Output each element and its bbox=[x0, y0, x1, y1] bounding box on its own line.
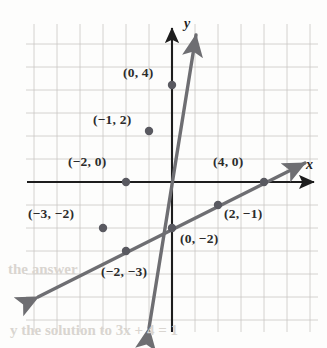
point-neg2-0 bbox=[122, 178, 130, 186]
point-0-4 bbox=[168, 81, 176, 89]
point-label-0-neg2: (0, −2) bbox=[180, 232, 218, 246]
point-label-0-4: (0, 4) bbox=[123, 66, 153, 80]
point-0-neg2 bbox=[168, 224, 176, 232]
point-label-2-neg1: (2, −1) bbox=[224, 207, 262, 221]
point-label-neg2-0: (−2, 0) bbox=[68, 155, 106, 169]
point-label-4-0: (4, 0) bbox=[213, 155, 243, 169]
graph-figure: the answer y the solution to 3x + 4 = 1 … bbox=[0, 0, 327, 348]
point-label-neg2-neg3: (−2, −3) bbox=[101, 265, 147, 279]
point-neg1-2 bbox=[145, 127, 153, 135]
bleed-text-line-1: the answer bbox=[8, 262, 78, 277]
y-axis-label: y bbox=[184, 17, 190, 31]
point-neg3-neg2 bbox=[99, 224, 107, 232]
point-label-neg1-2: (−1, 2) bbox=[93, 113, 131, 127]
x-axis-label: x bbox=[306, 158, 313, 172]
point-4-0 bbox=[260, 178, 268, 186]
bleed-text-line-2: y the solution to 3x + 4 = 1 bbox=[10, 323, 178, 338]
point-neg2-neg3 bbox=[122, 247, 130, 255]
coordinate-plane bbox=[0, 0, 327, 348]
point-label-neg3-neg2: (−3, −2) bbox=[28, 207, 74, 221]
point-2-neg1 bbox=[214, 201, 222, 209]
